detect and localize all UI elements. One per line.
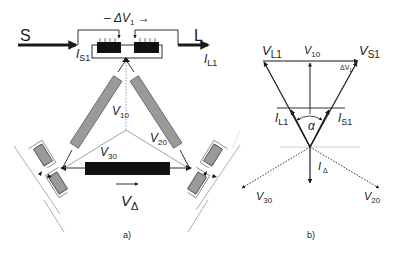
source-label: S <box>20 27 31 44</box>
dv1-label-b: ΔV1 <box>340 64 352 73</box>
load-current-label: IL1 <box>204 52 217 68</box>
vs1-label: VS1 <box>359 43 380 60</box>
v10-label: V10 <box>112 104 129 120</box>
v20-label-b: V20 <box>364 190 381 205</box>
series-winding-right <box>134 42 159 53</box>
vl1-label: VL1 <box>262 43 282 60</box>
il1-label: IL1 <box>275 111 288 127</box>
winding-taps <box>100 38 155 42</box>
delta-v1-label: – ΔV1 → <box>104 11 150 27</box>
aux-transformers-right <box>182 140 240 232</box>
i-delta-label: IΔ <box>318 160 328 174</box>
v10-label-b: V10 <box>304 44 321 59</box>
delta-winding <box>85 162 170 175</box>
phasor-diagram-figure: S L IS1 IL1 – ΔV1 → V10 V20 V30 VΔ a) <box>0 0 399 254</box>
series-winding-left <box>97 42 121 53</box>
source-current-label: IS1 <box>76 47 90 63</box>
panel-a-caption: a) <box>123 230 131 240</box>
v30-label-b: V30 <box>256 190 273 205</box>
load-label: L <box>194 27 203 44</box>
panel-b-caption: b) <box>307 230 315 240</box>
panel-a-circuit: S L IS1 IL1 – ΔV1 → V10 V20 V30 VΔ a) <box>14 11 240 240</box>
aux-transformers-left <box>14 140 73 232</box>
is1-label: IS1 <box>338 111 352 127</box>
alpha-label: α <box>308 119 316 133</box>
v30-label: V30 <box>100 145 117 161</box>
v30-phasor <box>242 147 310 188</box>
panel-b-phasor: VL1 V10 VS1 ΔV1 IL1 IS1 α IΔ V30 V20 b) <box>232 43 381 240</box>
v-delta-label: VΔ <box>121 192 139 212</box>
